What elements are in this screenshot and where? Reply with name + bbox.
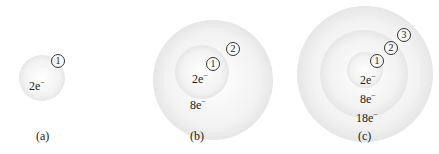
electron-count: 2e− [29, 77, 45, 92]
shell-number-2: 2 [384, 41, 398, 55]
electron-count-shell-3: 18e− [356, 109, 378, 124]
caption-a: (a) [36, 130, 49, 142]
electron-count-shell-2: 8e− [360, 90, 376, 105]
caption-c: (c) [358, 130, 371, 142]
electron-count-shell-1: 2e− [360, 71, 376, 86]
electron-count-shell-2: 8e− [190, 96, 206, 111]
shell-number-1: 1 [206, 57, 220, 71]
electron-count-shell-1: 2e− [192, 70, 208, 85]
shell-number-1: 1 [370, 54, 384, 68]
shell-number-2: 2 [226, 42, 240, 56]
shell-number-1: 1 [51, 54, 65, 68]
caption-b: (b) [190, 130, 204, 142]
shell-number-3: 3 [397, 28, 411, 42]
